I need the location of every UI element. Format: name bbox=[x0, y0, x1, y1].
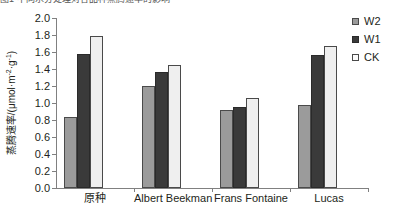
bar-w1-1 bbox=[155, 72, 168, 188]
y-tick-label: 0.8 bbox=[35, 115, 50, 126]
chart-screenshot: 图1 不同水分处理对各品种蒸腾速率的影响 蒸腾速率/(μmol·m-2·g-1)… bbox=[0, 0, 399, 220]
y-axis-title-main: 蒸腾速率/(μmol·m bbox=[6, 76, 17, 156]
bar-w2-3 bbox=[298, 105, 311, 188]
legend-swatch-icon-w2 bbox=[352, 18, 359, 25]
x-category-label: Frans Fontaine bbox=[212, 192, 290, 205]
y-tick-label: 1.6 bbox=[35, 47, 50, 58]
y-tick-mark bbox=[52, 52, 56, 53]
y-axis-title-mid: ·g bbox=[6, 60, 17, 69]
y-tick-label: 1.0 bbox=[35, 98, 50, 109]
x-category-label: Albert Beekman bbox=[134, 192, 212, 205]
x-category-label: Lucas bbox=[290, 192, 368, 205]
y-tick-mark bbox=[52, 188, 56, 189]
y-axis-title-sup1: -2 bbox=[5, 69, 12, 75]
legend-label-w1: W1 bbox=[364, 34, 381, 45]
y-tick-mark bbox=[52, 137, 56, 138]
bar-ck-1 bbox=[168, 65, 181, 188]
y-tick-label: 0.6 bbox=[35, 132, 50, 143]
y-tick-mark bbox=[52, 35, 56, 36]
bar-w2-2 bbox=[220, 110, 233, 188]
bar-w1-0 bbox=[77, 54, 90, 188]
legend-item-ck[interactable]: CK bbox=[352, 50, 398, 65]
chart-legend: W2 W1 CK bbox=[352, 14, 398, 68]
legend-item-w2[interactable]: W2 bbox=[352, 14, 398, 29]
y-tick-label: 1.4 bbox=[35, 64, 50, 75]
legend-item-w1[interactable]: W1 bbox=[352, 32, 398, 47]
y-axis-title-sup2: -1 bbox=[5, 54, 12, 60]
bar-w2-0 bbox=[64, 117, 77, 188]
y-axis-title-end: ) bbox=[6, 51, 17, 54]
y-tick-label: 2.0 bbox=[35, 13, 50, 24]
y-tick-mark bbox=[52, 86, 56, 87]
legend-swatch-icon-w1 bbox=[352, 36, 359, 43]
y-tick-label: 0.2 bbox=[35, 166, 50, 177]
y-tick-mark bbox=[52, 154, 56, 155]
y-tick-label: 1.8 bbox=[35, 30, 50, 41]
y-tick-label: 1.2 bbox=[35, 81, 50, 92]
y-tick-mark bbox=[52, 18, 56, 19]
y-tick-mark bbox=[52, 103, 56, 104]
x-category-label: 原种 bbox=[56, 192, 134, 205]
legend-label-ck: CK bbox=[364, 52, 379, 63]
bar-ck-0 bbox=[90, 36, 103, 188]
legend-label-w2: W2 bbox=[364, 16, 381, 27]
figure-caption: 图1 不同水分处理对各品种蒸腾速率的影响 bbox=[0, 0, 260, 4]
y-axis-title: 蒸腾速率/(μmol·m-2·g-1) bbox=[2, 18, 16, 188]
bar-ck-3 bbox=[324, 46, 337, 188]
y-tick-label: 0.4 bbox=[35, 149, 50, 160]
y-tick-mark bbox=[52, 69, 56, 70]
bar-w1-3 bbox=[311, 55, 324, 188]
y-tick-label: 0.0 bbox=[35, 183, 50, 194]
y-tick-mark bbox=[52, 171, 56, 172]
x-tick-mark bbox=[368, 188, 369, 192]
bar-w2-1 bbox=[142, 86, 155, 188]
plot-area: 0.00.20.40.60.81.01.21.41.61.82.0 bbox=[56, 18, 368, 188]
legend-swatch-icon-ck bbox=[352, 54, 359, 61]
y-tick-mark bbox=[52, 120, 56, 121]
bar-w1-2 bbox=[233, 107, 246, 188]
bar-ck-2 bbox=[246, 98, 259, 188]
